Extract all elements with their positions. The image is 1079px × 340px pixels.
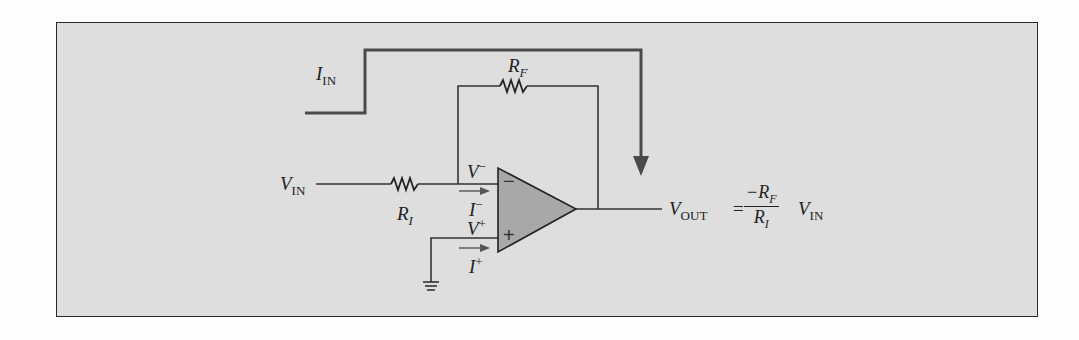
noninverting-input-wire — [431, 238, 498, 282]
equation-fraction: −RF RI — [744, 183, 779, 231]
equation-rhs-v-in: VIN — [798, 199, 823, 222]
current-arrow-i-minus-icon — [459, 187, 490, 195]
label-v-in: VIN — [280, 174, 305, 197]
opamp-minus-sign: − — [503, 170, 515, 193]
label-r-f: RF — [508, 56, 528, 79]
equation-equals: = — [733, 199, 744, 218]
equation-lhs-v-out: VOUT — [669, 199, 707, 222]
fraction-numerator: −RF — [744, 183, 779, 207]
label-i-in: IIN — [316, 64, 336, 87]
current-arrow-head-icon — [633, 156, 649, 176]
fraction-denominator: RI — [744, 207, 779, 231]
ground-icon — [423, 282, 439, 290]
circuit-schematic — [0, 0, 1079, 340]
opamp-plus-sign: + — [503, 224, 515, 247]
label-r-i: RI — [397, 204, 413, 227]
input-current-path — [305, 50, 641, 162]
label-i-plus: I+ — [469, 255, 483, 276]
feedback-resistor-rf — [500, 80, 527, 92]
label-v-plus: V+ — [467, 217, 486, 238]
current-arrow-i-plus-icon — [459, 244, 490, 252]
label-v-minus: V− — [467, 160, 486, 181]
input-resistor-ri — [391, 178, 418, 190]
